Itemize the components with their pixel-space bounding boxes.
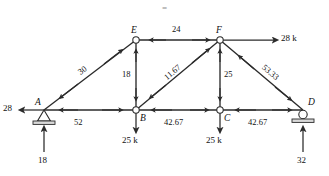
member-force-label-CF: 25 xyxy=(224,70,233,79)
applied-load-arrows xyxy=(20,40,277,132)
equals-symbol: = xyxy=(162,4,167,13)
pin-support-triangle-icon xyxy=(38,110,51,121)
pin-support-A xyxy=(33,110,55,124)
joint-node-F xyxy=(217,37,223,43)
roller-support-D xyxy=(292,110,314,122)
load-label-B-vertical: 25 k xyxy=(122,136,138,145)
load-label-A-horizontal: 28 xyxy=(3,104,12,113)
joint-label-B: B xyxy=(140,114,146,124)
roller-support-circle-icon xyxy=(299,110,307,118)
joint-label-A: A xyxy=(35,98,41,108)
arrow-FD-toward-D xyxy=(275,87,291,100)
joint-label-E: E xyxy=(131,26,137,36)
arrow-BF-toward-F xyxy=(192,49,209,63)
reaction-arrows xyxy=(44,127,303,152)
roller-support-base-plate xyxy=(292,119,314,122)
reaction-label-D: 32 xyxy=(297,156,306,165)
member-force-label-EF: 24 xyxy=(172,25,181,34)
member-force-label-BC: 42.67 xyxy=(164,118,183,127)
member-force-label-AB: 52 xyxy=(74,118,83,127)
joint-label-F: F xyxy=(216,26,222,36)
pin-support-base-plate xyxy=(33,121,55,124)
joint-node-B xyxy=(133,107,139,113)
reaction-label-A: 18 xyxy=(38,156,47,165)
arrow-BF-toward-B xyxy=(150,85,166,98)
truss-drawing-canvas xyxy=(0,0,329,176)
load-label-C-vertical: 25 k xyxy=(206,136,222,145)
joint-label-D: D xyxy=(308,98,315,108)
arrow-AE-toward-A xyxy=(60,84,78,98)
arrow-AE-toward-E xyxy=(104,50,122,64)
truss-diagram-figure: = A B C D E F 52 42.67 42.67 24 30 18 11… xyxy=(0,0,329,176)
load-label-F-horizontal: 28 k xyxy=(281,34,297,43)
joint-label-C: C xyxy=(224,114,230,124)
arrow-FD-toward-F xyxy=(239,56,254,69)
member-force-label-CD: 42.67 xyxy=(248,118,267,127)
joint-node-E xyxy=(133,37,139,43)
member-force-label-EB: 18 xyxy=(122,70,131,79)
joint-node-C xyxy=(217,107,223,113)
